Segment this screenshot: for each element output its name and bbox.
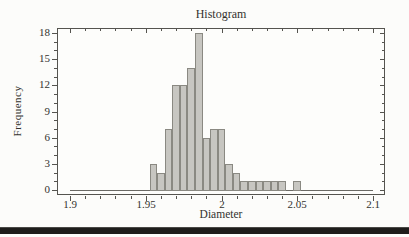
y-major-tick [52, 33, 57, 34]
x-minor-tick [115, 196, 116, 199]
y-minor-tick-right [382, 42, 384, 43]
x-minor-tick-top [252, 29, 253, 31]
histogram-bar [293, 181, 301, 191]
x-minor-tick-top [282, 29, 283, 31]
y-tick-label: 9 [20, 105, 50, 118]
y-minor-tick [54, 42, 57, 43]
y-minor-tick-right [382, 129, 384, 130]
x-minor-tick-top [358, 29, 359, 31]
y-minor-tick-right [382, 68, 384, 69]
histogram-bar [187, 68, 195, 191]
histogram-bar [240, 181, 248, 191]
y-major-tick [52, 112, 57, 113]
x-minor-tick [176, 196, 177, 199]
y-tick-label: 15 [20, 52, 50, 65]
page-divider-rule [0, 227, 409, 234]
y-tick-label: 18 [20, 26, 50, 39]
x-minor-tick-top [100, 29, 101, 31]
histogram-bar [278, 181, 286, 191]
y-minor-tick [54, 155, 57, 156]
y-tick-label: 3 [20, 157, 50, 170]
x-tick-label: 2.1 [351, 198, 395, 210]
y-minor-tick-right [382, 173, 384, 174]
y-major-tick [52, 138, 57, 139]
histogram-bar [195, 33, 203, 191]
x-minor-tick-top [237, 29, 238, 31]
y-major-tick-right [380, 59, 384, 60]
histogram-bar [248, 181, 256, 191]
x-minor-tick-top [267, 29, 268, 31]
histogram-bar [172, 85, 180, 191]
x-minor-tick [252, 196, 253, 199]
x-major-tick-top [146, 29, 147, 33]
x-tick-label: 2.05 [275, 198, 319, 210]
y-major-tick [52, 85, 57, 86]
scanned-page: Histogram Frequency Diameter 1.91.9522.0… [0, 0, 409, 237]
histogram-bar [180, 85, 187, 191]
x-minor-tick-top [191, 29, 192, 31]
y-major-tick-right [380, 112, 384, 113]
x-minor-tick-top [115, 29, 116, 31]
y-minor-tick [54, 50, 57, 51]
y-minor-tick-right [382, 103, 384, 104]
y-tick-label: 6 [20, 131, 50, 144]
x-major-tick-top [297, 29, 298, 33]
histogram-bar [218, 129, 225, 191]
y-major-tick-right [380, 190, 384, 191]
y-minor-tick-right [382, 50, 384, 51]
y-major-tick [52, 59, 57, 60]
histogram-figure: Histogram Frequency Diameter 1.91.9522.0… [0, 0, 409, 237]
x-tick-label: 1.95 [124, 198, 168, 210]
x-minor-tick [343, 196, 344, 199]
y-minor-tick [54, 181, 57, 182]
y-minor-tick-right [382, 181, 384, 182]
x-minor-tick [191, 196, 192, 199]
x-minor-tick [328, 196, 329, 199]
y-major-tick-right [380, 33, 384, 34]
y-tick-label: 12 [20, 78, 50, 91]
y-minor-tick [54, 120, 57, 121]
x-minor-tick-top [131, 29, 132, 31]
y-minor-tick [54, 103, 57, 104]
y-minor-tick [54, 129, 57, 130]
x-tick-label: 1.9 [48, 198, 92, 210]
y-major-tick [52, 190, 57, 191]
y-major-tick-right [380, 138, 384, 139]
y-minor-tick [54, 146, 57, 147]
histogram-bar [165, 129, 172, 191]
histogram-bar [263, 181, 271, 191]
x-major-tick-top [373, 29, 374, 33]
x-minor-tick-top [343, 29, 344, 31]
x-minor-tick [267, 196, 268, 199]
y-minor-tick-right [382, 120, 384, 121]
x-minor-tick-top [176, 29, 177, 31]
x-major-tick-top [222, 29, 223, 33]
x-minor-tick-top [328, 29, 329, 31]
y-minor-tick-right [382, 77, 384, 78]
y-minor-tick [54, 173, 57, 174]
histogram-bar [271, 181, 278, 191]
histogram-bar [203, 138, 210, 191]
x-major-tick-top [70, 29, 71, 33]
y-major-tick [52, 164, 57, 165]
y-minor-tick [54, 77, 57, 78]
y-minor-tick-right [382, 146, 384, 147]
y-minor-tick [54, 68, 57, 69]
y-major-tick-right [380, 164, 384, 165]
y-tick-label: 0 [20, 183, 50, 196]
histogram-bar [150, 164, 157, 191]
chart-title: Histogram [57, 7, 385, 22]
histogram-bar [233, 173, 240, 191]
x-minor-tick-top [85, 29, 86, 31]
x-minor-tick-top [161, 29, 162, 31]
x-minor-tick [100, 196, 101, 199]
histogram-bar [157, 173, 165, 191]
y-minor-tick [54, 94, 57, 95]
histogram-bar [210, 129, 218, 191]
x-minor-tick-top [206, 29, 207, 31]
histogram-bar [225, 164, 233, 191]
histogram-bar [256, 181, 263, 191]
y-minor-tick-right [382, 155, 384, 156]
y-minor-tick-right [382, 94, 384, 95]
x-minor-tick-top [312, 29, 313, 31]
